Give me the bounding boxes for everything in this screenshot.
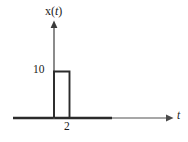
x-axis-label: t (177, 110, 180, 122)
pulse-waveform (54, 72, 70, 119)
y-axis-label-suffix: ) (58, 4, 62, 18)
y-axis-label: x(t) (45, 5, 62, 17)
up-arrow-icon (51, 21, 58, 29)
right-arrow-icon (166, 115, 174, 122)
y-axis-label-prefix: x( (45, 4, 55, 18)
signal-plot-figure: x(t) 10 2 t (0, 0, 188, 142)
plot-canvas (0, 0, 188, 142)
y-tick-label-10: 10 (33, 64, 45, 76)
x-tick-label-2: 2 (64, 121, 70, 133)
